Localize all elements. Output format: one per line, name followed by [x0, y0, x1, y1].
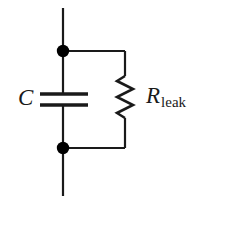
resistor-zigzag-icon — [117, 76, 133, 118]
circuit-schematic-canvas — [0, 0, 228, 227]
circuit-diagram: C Rleak — [0, 0, 228, 227]
bottom-junction-node — [57, 142, 69, 154]
top-junction-node — [57, 45, 69, 57]
